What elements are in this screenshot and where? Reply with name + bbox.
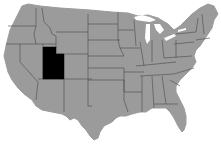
us-map-svg xyxy=(0,0,221,148)
us-map: United States map with Utah highlighted … xyxy=(0,0,221,148)
